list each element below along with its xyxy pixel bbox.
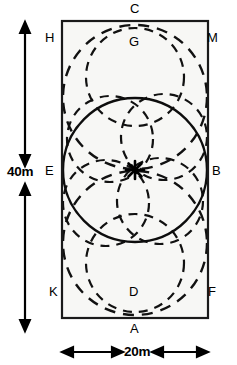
label-point-d: D [129, 285, 138, 298]
center-asterisk-marker [126, 161, 144, 179]
label-point-e: E [45, 164, 54, 177]
label-point-b: B [212, 164, 221, 177]
label-point-a: A [130, 322, 139, 335]
label-point-c: C [130, 2, 139, 15]
dimension-arrow-vertical-lower [20, 184, 30, 331]
dimension-arrow-horizontal-right [152, 347, 208, 357]
geometry-diagram: C H M G E B D K F A 40m 20m [0, 0, 237, 365]
dimension-label-width: 20m [124, 345, 150, 359]
label-point-g: G [129, 35, 139, 48]
dimension-arrow-vertical-upper [20, 22, 30, 166]
label-point-m: M [207, 31, 218, 44]
label-point-k: K [49, 285, 58, 298]
dimension-arrow-horizontal-left [62, 347, 123, 357]
label-point-h: H [45, 31, 54, 44]
dimension-label-height: 40m [7, 165, 33, 179]
label-point-f: F [208, 285, 216, 298]
diagram-canvas [0, 0, 237, 365]
